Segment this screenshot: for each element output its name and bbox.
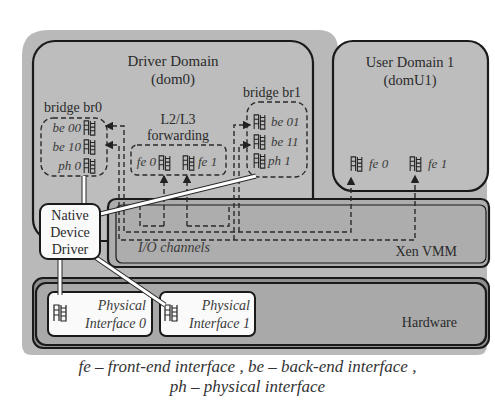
svg-text:Device: Device xyxy=(50,225,90,240)
user-domain-title: User Domain 1 xyxy=(366,54,455,70)
svg-text:fe 0: fe 0 xyxy=(137,154,157,169)
user-domain-subtitle: (domU1) xyxy=(383,72,436,89)
xen-vmm-label: Xen VMM xyxy=(395,244,457,259)
bridge-br0-label: bridge br0 xyxy=(44,100,102,115)
native-device-driver: Native Device Driver xyxy=(40,204,100,259)
svg-text:be 00: be 00 xyxy=(52,120,81,135)
driver-domain-subtitle: (dom0) xyxy=(151,71,195,88)
bridge-br1-label: bridge br1 xyxy=(243,85,301,100)
physical-interface-1: Physical Interface 1 xyxy=(160,292,255,336)
xen-network-architecture-diagram: Driver Domain (dom0) User Domain 1 (domU… xyxy=(0,0,495,409)
svg-text:fe 1: fe 1 xyxy=(428,156,447,171)
physical-interface-0: Physical Interface 0 xyxy=(48,292,152,336)
io-channels-label: I/O channels xyxy=(137,240,210,255)
driver-domain-title: Driver Domain xyxy=(127,53,219,69)
hardware-label: Hardware xyxy=(402,315,457,330)
svg-text:Interface 1: Interface 1 xyxy=(188,316,250,331)
caption-line-2: ph – physical interface xyxy=(0,377,495,397)
svg-text:be 10: be 10 xyxy=(52,139,81,154)
svg-text:Driver: Driver xyxy=(52,242,89,257)
svg-text:forwarding: forwarding xyxy=(147,128,209,143)
svg-text:Interface 0: Interface 0 xyxy=(84,316,146,331)
svg-text:be 01: be 01 xyxy=(271,114,300,129)
caption-line-1: fe – front-end interface , be – back-end… xyxy=(0,357,495,377)
svg-text:Physical: Physical xyxy=(97,298,146,313)
svg-text:L2/L3: L2/L3 xyxy=(161,112,196,127)
svg-text:be 11: be 11 xyxy=(271,134,299,149)
svg-text:Native: Native xyxy=(51,208,88,223)
svg-text:fe 1: fe 1 xyxy=(198,154,217,169)
svg-text:Physical: Physical xyxy=(201,298,250,313)
svg-text:fe 0: fe 0 xyxy=(369,156,389,171)
svg-text:ph 1: ph 1 xyxy=(267,153,291,168)
svg-text:ph 0: ph 0 xyxy=(57,158,81,173)
